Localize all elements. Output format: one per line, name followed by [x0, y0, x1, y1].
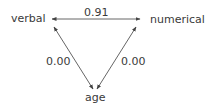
node-numerical: numerical — [150, 14, 205, 26]
edge-label-verbal-age: 0.00 — [46, 56, 71, 68]
path-diagram: verbal numerical age 0.91 0.00 0.00 — [0, 0, 208, 109]
edge-label-numerical-age: 0.00 — [121, 56, 146, 68]
node-age: age — [85, 92, 106, 104]
edge-label-verbal-numerical: 0.91 — [84, 7, 109, 19]
node-verbal: verbal — [11, 13, 46, 25]
